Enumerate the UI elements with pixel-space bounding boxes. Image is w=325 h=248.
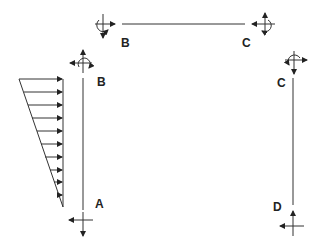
- joint-b-beam-force-icon: [95, 14, 115, 38]
- support-d-force-icon: [280, 211, 304, 236]
- label-beam-b: B: [121, 37, 130, 49]
- joint-c-beam-force-icon: [252, 13, 275, 34]
- label-column-d: D: [273, 201, 282, 213]
- distributed-load: [19, 79, 63, 207]
- label-column-b: B: [97, 76, 106, 88]
- label-beam-c: C: [242, 37, 251, 49]
- joint-c-column-force-icon: [285, 51, 307, 74]
- label-column-a: A: [95, 198, 104, 210]
- joint-b-column-force-icon: [70, 50, 92, 73]
- support-a-force-icon: [69, 212, 93, 236]
- label-column-c: C: [277, 77, 286, 89]
